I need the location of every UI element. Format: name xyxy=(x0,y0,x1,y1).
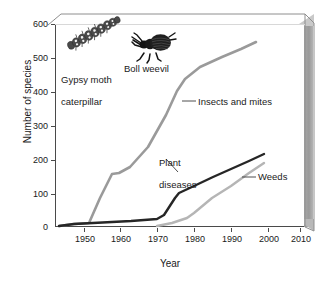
illustration-layer xyxy=(0,0,326,282)
chart-figure: 600 500 400 300 200 100 0 Number of spec… xyxy=(0,0,326,282)
gypsy-moth-caterpillar-caption: Gypsy moth caterpillar xyxy=(61,63,112,118)
gypsy-moth-caterpillar-illustration xyxy=(64,16,125,52)
boll-weevil-caption: Boll weevil xyxy=(124,63,169,74)
gypsy-caption-line1: Gypsy moth xyxy=(61,74,112,85)
boll-weevil-illustration xyxy=(132,33,176,63)
gypsy-caption-line2: caterpillar xyxy=(61,96,112,107)
